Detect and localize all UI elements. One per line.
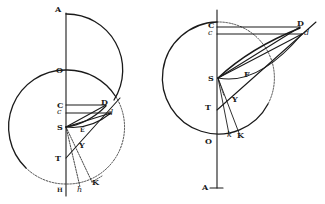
label-right-D: D <box>297 19 304 27</box>
label-right-K: K <box>237 131 244 139</box>
right-line-Sk <box>218 78 229 134</box>
right-figure <box>162 10 316 188</box>
label-left-A: A <box>55 5 61 13</box>
left-tangent-line <box>66 98 120 158</box>
label-right-O: O <box>205 137 212 145</box>
label-right-k: k <box>227 131 232 139</box>
label-left-Y: Y <box>79 141 85 149</box>
label-left-E: E <box>80 127 85 133</box>
label-left-h: h <box>77 186 82 194</box>
label-left-D: D <box>101 98 108 106</box>
label-right-d: d <box>304 29 309 37</box>
left-line-Sh <box>66 127 80 187</box>
label-right-A: A <box>202 183 208 191</box>
label-left-S: S <box>57 123 63 131</box>
label-left-H: H <box>57 187 63 193</box>
label-right-F: F <box>244 70 250 78</box>
label-left-O: O <box>56 66 63 74</box>
right-line-SD <box>218 27 300 78</box>
geometric-diagram: A O C c D d S E Y T H h K C c D d S F Y … <box>0 0 325 204</box>
diagram-svg <box>0 0 325 204</box>
label-right-T: T <box>205 103 211 111</box>
left-upper-arc <box>66 14 123 100</box>
label-left-K: K <box>92 178 99 186</box>
label-right-c: c <box>208 29 212 37</box>
right-circle-solid <box>162 22 268 134</box>
label-right-Y: Y <box>232 95 238 103</box>
label-left-T: T <box>55 154 61 162</box>
left-line-SK <box>66 127 92 182</box>
left-lower-circle-solid <box>9 70 116 168</box>
label-left-d: d <box>108 109 113 117</box>
label-left-c: c <box>57 108 61 116</box>
right-line-SK <box>218 78 239 133</box>
label-right-S: S <box>208 74 214 82</box>
